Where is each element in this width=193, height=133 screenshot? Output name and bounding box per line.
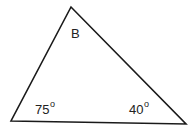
angle-75-label: 75 o <box>35 99 55 117</box>
svg-text:75: 75 <box>35 102 49 117</box>
angle-40-label: 40 o <box>129 99 149 117</box>
triangle-diagram: B 75 o 40 o <box>0 0 193 133</box>
svg-text:40: 40 <box>129 102 143 117</box>
angle-b-label: B <box>71 26 80 41</box>
degree-symbol: o <box>144 99 149 109</box>
degree-symbol: o <box>50 99 55 109</box>
